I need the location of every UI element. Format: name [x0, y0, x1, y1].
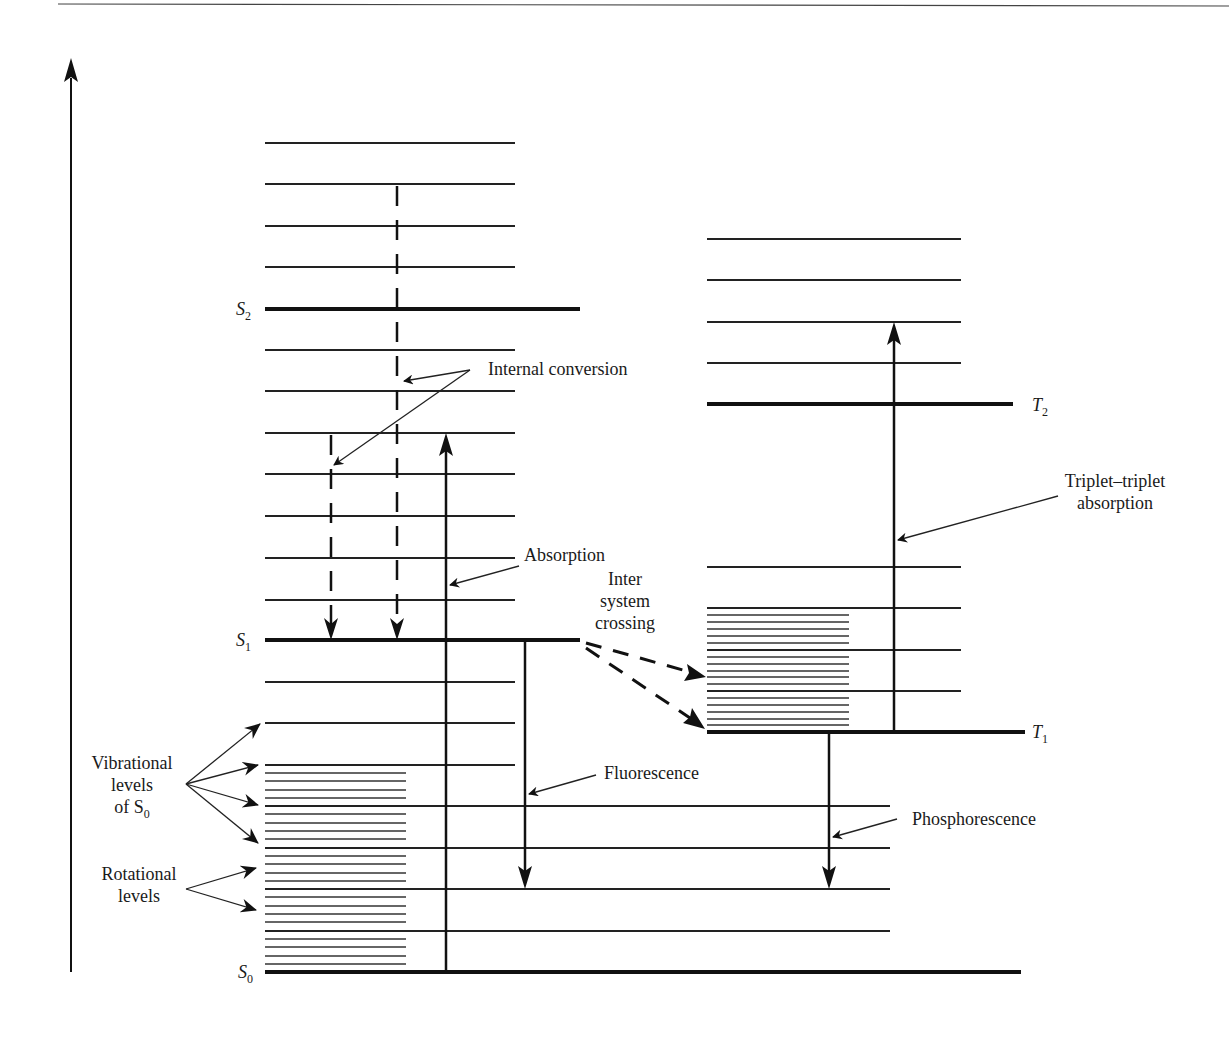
energy-axis-arrow — [64, 58, 78, 972]
rot-pointer-1 — [186, 868, 256, 889]
internal-conversion-paths — [331, 186, 397, 625]
top-rule — [58, 4, 1229, 6]
triplet-pointer — [898, 496, 1058, 540]
vib-pointer-3 — [186, 784, 258, 805]
singlet-vibrational-levels — [265, 143, 515, 723]
rot-pointer-2 — [186, 889, 256, 910]
s0-label: S0 — [238, 961, 253, 990]
internal-conversion-label: Internal conversion — [488, 358, 627, 380]
intersystem-crossing-paths — [586, 643, 690, 718]
absorption-pointer — [450, 566, 519, 585]
isc-label: Inter system crossing — [570, 568, 680, 634]
vibrational-levels-label: Vibrational levels of S0 — [78, 752, 186, 825]
ic-pointer-1 — [404, 370, 470, 381]
ic-arrowhead-1 — [390, 618, 404, 640]
jablonski-diagram: S2 S1 S0 T2 T1 Internal conversion Absor… — [0, 0, 1229, 1040]
absorption-label: Absorption — [524, 544, 605, 566]
triplet-absorption-label: Triplet–triplet absorption — [1040, 470, 1190, 514]
triplet-vibrational-levels — [707, 239, 961, 691]
phosphorescence-label: Phosphorescence — [912, 808, 1036, 830]
fluorescence-pointer — [529, 775, 596, 794]
s1-label: S1 — [236, 629, 251, 658]
fluorescence-label: Fluorescence — [604, 762, 699, 784]
vib-pointer-1 — [186, 724, 260, 784]
rotational-levels-label: Rotational levels — [84, 863, 194, 907]
t1-label: T1 — [1032, 721, 1048, 750]
s2-label: S2 — [236, 298, 251, 327]
s0-rotational-levels — [265, 773, 406, 964]
t2-label: T2 — [1032, 394, 1048, 423]
phosphorescence-pointer — [833, 819, 897, 837]
vib-pointer-4 — [186, 784, 258, 843]
t1-rotational-levels — [707, 615, 849, 725]
